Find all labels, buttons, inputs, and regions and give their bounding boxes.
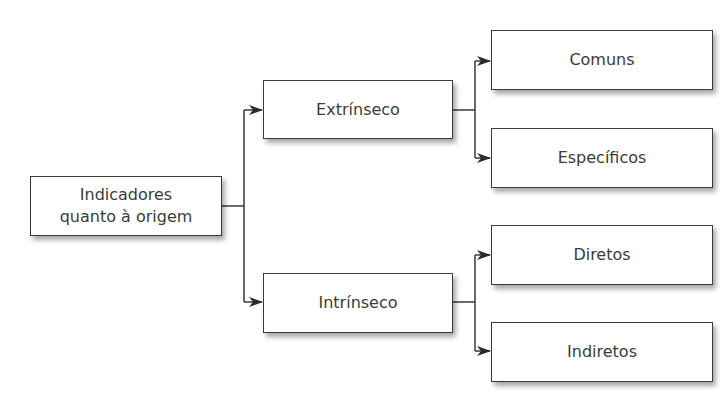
node-label: Comuns	[569, 49, 634, 71]
node-label: Diretos	[573, 244, 630, 266]
node-intrinseco: Intrínseco	[263, 273, 453, 333]
node-especificos: Específicos	[491, 128, 713, 188]
root-label-line1: Indicadores	[60, 184, 193, 206]
node-root-indicadores: Indicadores quanto à origem	[30, 176, 222, 236]
node-diretos: Diretos	[491, 225, 713, 285]
node-extrinseco: Extrínseco	[263, 80, 453, 139]
node-comuns: Comuns	[491, 30, 713, 90]
node-label: Indiretos	[567, 341, 637, 363]
node-label: Extrínseco	[316, 99, 400, 121]
node-label: Específicos	[558, 147, 647, 169]
root-label-line2: quanto à origem	[60, 206, 193, 228]
diagram-canvas: Indicadores quanto à origem Extrínseco I…	[0, 0, 723, 404]
node-label: Intrínseco	[318, 292, 397, 314]
node-indiretos: Indiretos	[491, 322, 713, 382]
